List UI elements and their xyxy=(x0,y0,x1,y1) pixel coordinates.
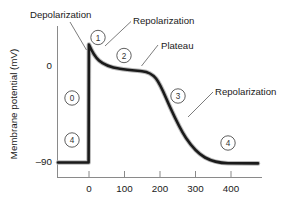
annotation-repolarization-phase3: Repolarization xyxy=(215,86,276,97)
phase-marker-1: 1 xyxy=(91,30,105,44)
phase-marker-4-right: 4 xyxy=(221,136,235,150)
x-tick-label-0: 0 xyxy=(86,183,92,194)
x-tick-label-200: 200 xyxy=(152,183,169,194)
phase-marker-0-label: 0 xyxy=(70,94,75,103)
annotation-repolarization-phase1: Repolarization xyxy=(133,15,194,26)
annotation-depolarization: Depolarization xyxy=(30,9,91,20)
y-tick-label-0: 0 xyxy=(47,60,53,71)
phase-marker-0: 0 xyxy=(65,91,79,105)
x-tick-label-400: 400 xyxy=(223,183,240,194)
chart-background xyxy=(0,0,301,203)
phase-marker-3-label: 3 xyxy=(176,92,181,101)
phase-marker-4-left: 4 xyxy=(65,133,79,147)
action-potential-chart: 0 100 200 300 400 0 –90 Membrane potenti… xyxy=(0,0,301,203)
phase-marker-1-label: 1 xyxy=(96,34,101,43)
phase-marker-2: 2 xyxy=(117,48,131,62)
y-axis-title: Membrane potential (mV) xyxy=(8,49,19,160)
x-tick-label-100: 100 xyxy=(116,183,133,194)
x-tick-label-300: 300 xyxy=(187,183,204,194)
annotation-plateau: Plateau xyxy=(161,40,194,51)
phase-marker-4-left-label: 4 xyxy=(70,136,75,145)
y-tick-label-minus90: –90 xyxy=(36,156,53,167)
phase-marker-3: 3 xyxy=(171,89,185,103)
phase-marker-4-right-label: 4 xyxy=(226,139,231,148)
phase-marker-2-label: 2 xyxy=(122,52,127,61)
